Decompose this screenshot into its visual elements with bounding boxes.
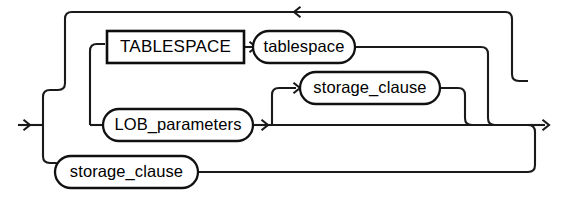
arrowheads-group [24, 7, 550, 130]
syntax-diagram-container: TABLESPACEtablespacestorage_clauseLOB_pa… [0, 0, 561, 202]
node-tablespace-keyword: TABLESPACE [107, 31, 244, 63]
storage-clause-middle-label: storage_clause [313, 78, 426, 97]
node-storage-clause-bottom: storage_clause [55, 156, 198, 188]
railroad-diagram: TABLESPACEtablespacestorage_clauseLOB_pa… [0, 0, 561, 202]
storage-clause-bottom-label: storage_clause [70, 162, 183, 181]
lob-parameters-label: LOB_parameters [114, 115, 241, 134]
tablespace-keyword-label: TABLESPACE [120, 37, 231, 56]
entry-fork-down-rail [43, 125, 56, 163]
tablespace-name-label: tablespace [264, 37, 345, 55]
tablespace-branch-rail [90, 44, 105, 125]
node-storage-clause-middle: storage_clause [300, 72, 440, 104]
node-lob-parameters: LOB_parameters [103, 109, 253, 141]
entry-fork-rail [43, 90, 58, 125]
storage-clause-middle-exit-rail [440, 88, 482, 125]
storage-clause-middle-branch-rail [272, 88, 296, 125]
diagram-nodes-group: TABLESPACEtablespacestorage_clauseLOB_pa… [55, 31, 440, 188]
node-tablespace-name: tablespace [253, 31, 355, 63]
